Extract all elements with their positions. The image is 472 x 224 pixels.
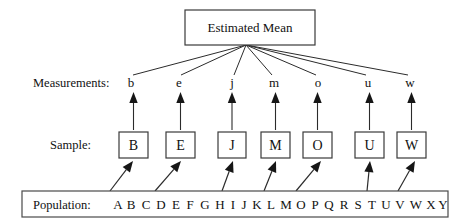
population-letter-E: E <box>172 197 180 212</box>
sample-letter-E: E <box>176 138 185 153</box>
sample-box-M: M <box>261 132 290 158</box>
population-letter-F: F <box>186 197 193 212</box>
fan-line-w <box>246 45 408 75</box>
sample-box-U: U <box>355 132 384 158</box>
population-letter-H: H <box>215 197 224 212</box>
population-letter-G: G <box>200 197 209 212</box>
fan-line-b <box>133 45 246 75</box>
measurement-arrow-j <box>228 92 236 130</box>
measurements-row-label: Measurements: <box>33 76 109 90</box>
measurement-letters: bejmouw <box>128 75 416 90</box>
population-label: Population: <box>33 198 91 212</box>
population-letter-J: J <box>241 197 246 212</box>
measurement-arrows <box>129 92 415 130</box>
population-letter-C: C <box>142 197 151 212</box>
sample-letter-M: M <box>269 138 282 153</box>
population-letter-T: T <box>368 197 376 212</box>
sample-box-J: J <box>218 132 246 158</box>
population-letter-B: B <box>127 197 136 212</box>
sample-letter-B: B <box>129 138 138 153</box>
population-letter-R: R <box>340 197 349 212</box>
sampling-diagram: Estimated Mean Measurements: bejmouw Sam… <box>0 0 472 224</box>
sample-letter-O: O <box>312 138 322 153</box>
sample-box-O: O <box>303 132 332 158</box>
population-letter-X: X <box>426 197 436 212</box>
population-letter-P: P <box>311 197 318 212</box>
diagram-canvas: Estimated Mean Measurements: bejmouw Sam… <box>0 0 472 224</box>
measurement-arrow-o <box>313 92 321 130</box>
population-letter-K: K <box>252 197 262 212</box>
population-letter-L: L <box>267 197 275 212</box>
sampling-arrow-2 <box>222 161 234 191</box>
population-letter-Y: Y <box>438 197 448 212</box>
sample-boxes: BEJMOUW <box>119 132 426 158</box>
measurement-arrow-w <box>407 92 415 130</box>
population-letter-I: I <box>231 197 235 212</box>
estimated-mean-fan-lines <box>133 45 408 75</box>
estimated-mean-node: Estimated Mean <box>185 10 315 45</box>
sample-box-B: B <box>119 132 148 158</box>
measurement-letter-j: j <box>229 75 234 90</box>
sampling-arrow-5 <box>364 161 373 191</box>
sample-row-label: Sample: <box>50 138 91 152</box>
population-letter-U: U <box>381 197 391 212</box>
measurement-arrow-b <box>129 92 137 130</box>
measurement-letter-u: u <box>365 75 372 90</box>
sample-letter-J: J <box>229 138 235 153</box>
measurement-letter-w: w <box>405 75 415 90</box>
population-letter-D: D <box>156 197 165 212</box>
sampling-arrows <box>110 161 415 191</box>
measurement-letter-e: e <box>176 75 182 90</box>
sampling-arrow-1 <box>155 161 181 191</box>
measurement-letter-b: b <box>128 75 135 90</box>
population-letter-A: A <box>113 197 123 212</box>
population-letter-V: V <box>395 197 405 212</box>
sampling-arrow-3 <box>264 161 276 191</box>
population-letters: ABCDEFGHIJKLMOPQRSTUVWXY <box>113 197 448 212</box>
sample-letter-U: U <box>364 138 374 153</box>
sampling-arrow-4 <box>296 161 321 191</box>
sampling-arrow-6 <box>398 161 415 191</box>
population-letter-W: W <box>410 197 423 212</box>
measurement-arrow-e <box>176 92 184 130</box>
sample-letter-W: W <box>405 138 419 153</box>
sampling-arrow-0 <box>110 161 133 191</box>
population-letter-S: S <box>354 197 361 212</box>
estimated-mean-label: Estimated Mean <box>208 20 293 35</box>
measurement-letter-o: o <box>315 75 322 90</box>
sample-box-W: W <box>397 132 426 158</box>
population-node: Population: ABCDEFGHIJKLMOPQRSTUVWXY <box>22 191 448 217</box>
sample-box-E: E <box>166 132 195 158</box>
measurement-letter-m: m <box>269 75 279 90</box>
population-letter-Q: Q <box>324 197 334 212</box>
measurement-arrow-u <box>365 92 373 130</box>
population-letter-M: M <box>280 197 292 212</box>
population-letter-O: O <box>296 197 305 212</box>
measurement-arrow-m <box>271 92 279 130</box>
